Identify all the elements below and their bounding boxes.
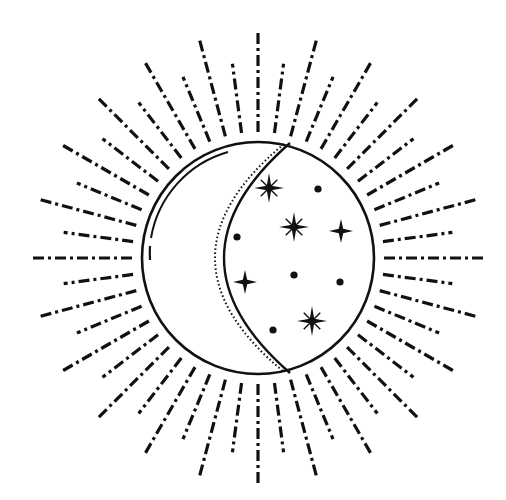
sun-moon-stars-icon — [0, 0, 506, 500]
celestial-illustration — [0, 0, 506, 500]
moon-disc — [138, 138, 378, 378]
